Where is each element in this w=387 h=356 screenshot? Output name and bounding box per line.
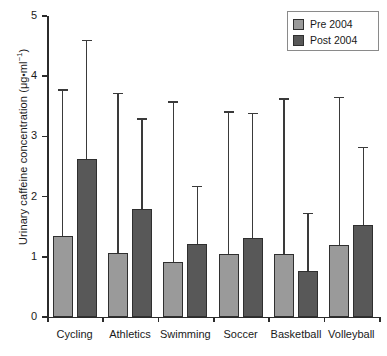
bar-swimming-pre — [163, 262, 183, 317]
error-bar-stem — [252, 113, 253, 238]
x-axis-tick-label: Basketball — [271, 328, 322, 340]
y-axis-tick-label: 4 — [19, 70, 37, 81]
y-axis-tick-label: 2 — [19, 191, 37, 202]
error-bar-cap — [192, 186, 202, 187]
bar-soccer-post — [243, 238, 263, 317]
error-bar-stem — [141, 118, 142, 209]
error-bar-stem — [197, 186, 198, 244]
y-axis-tick-label: 0 — [19, 311, 37, 322]
error-bar-cap — [58, 89, 68, 90]
x-axis-tick-label: Swimming — [160, 328, 211, 340]
legend-swatch-post-icon — [293, 35, 304, 46]
y-axis-tick — [42, 15, 47, 17]
error-bar-stem — [339, 97, 340, 245]
x-axis-tick — [47, 317, 49, 322]
error-bar-stem — [173, 101, 174, 261]
caffeine-concentration-bar-chart: Urinary caffeine concentration (μg•ml−1)… — [0, 0, 387, 356]
error-bar-stem — [307, 213, 308, 271]
x-axis-tick-label: Soccer — [224, 328, 258, 340]
x-axis-tick-label: Cycling — [57, 328, 93, 340]
y-axis-title-exponent: −1 — [15, 53, 24, 62]
legend-swatch-pre-icon — [293, 19, 304, 30]
error-bar-stem — [62, 89, 63, 236]
y-axis-tick-label: 5 — [19, 10, 37, 21]
x-axis-tick — [213, 317, 215, 322]
bar-soccer-pre — [219, 254, 239, 317]
legend-label-post: Post 2004 — [310, 35, 357, 46]
bar-volleyball-post — [353, 225, 373, 317]
bar-cycling-post — [77, 159, 97, 317]
error-bar-stem — [228, 111, 229, 254]
bar-athletics-post — [132, 209, 152, 317]
y-axis-tick — [42, 196, 47, 198]
y-axis-title-prefix: Urinary caffeine concentration (μg — [17, 76, 29, 245]
error-bar-cap — [334, 97, 344, 98]
error-bar-cap — [168, 101, 178, 102]
error-bar-stem — [363, 147, 364, 226]
x-axis-tick — [102, 317, 104, 322]
x-axis-tick — [379, 317, 381, 322]
error-bar-cap — [82, 40, 92, 41]
x-axis-tick — [158, 317, 160, 322]
y-axis-tick — [42, 256, 47, 258]
x-axis-tick-label: Athletics — [109, 328, 151, 340]
bar-basketball-post — [298, 271, 318, 317]
y-axis-tick — [42, 136, 47, 138]
y-axis-tick-label: 3 — [19, 130, 37, 141]
legend-item-post: Post 2004 — [293, 32, 373, 48]
y-axis-title-suffix: ) — [17, 49, 29, 53]
bar-cycling-pre — [53, 236, 73, 317]
y-axis-tick — [42, 75, 47, 77]
bar-basketball-pre — [274, 254, 294, 317]
plot-area: 012345 CyclingAthleticsSwimmingSoccerBas… — [47, 16, 379, 318]
x-axis-tick-label: Volleyball — [328, 328, 374, 340]
error-bar-cap — [279, 98, 289, 99]
bar-volleyball-pre — [329, 245, 349, 317]
x-axis-tick — [324, 317, 326, 322]
y-axis-title: Urinary caffeine concentration (μg•ml−1) — [15, 7, 29, 287]
legend: Pre 2004 Post 2004 — [287, 11, 379, 51]
error-bar-cap — [358, 147, 368, 148]
error-bar-cap — [224, 111, 234, 112]
error-bar-stem — [283, 98, 284, 254]
legend-item-pre: Pre 2004 — [293, 16, 373, 32]
y-axis-tick-label: 1 — [19, 251, 37, 262]
error-bar-stem — [117, 93, 118, 253]
error-bar-cap — [113, 93, 123, 94]
legend-label-pre: Pre 2004 — [310, 19, 353, 30]
error-bar-stem — [86, 40, 87, 159]
x-axis-tick — [268, 317, 270, 322]
error-bar-cap — [303, 213, 313, 214]
error-bar-cap — [248, 113, 258, 114]
bar-athletics-pre — [108, 253, 128, 317]
bar-swimming-post — [187, 244, 207, 317]
error-bar-cap — [137, 118, 147, 119]
y-axis-line — [47, 16, 49, 318]
